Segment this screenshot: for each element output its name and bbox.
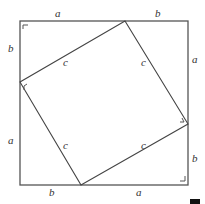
label-right-a: a [192,53,198,65]
end-marker [190,199,200,204]
label-bottom-b: b [49,186,55,198]
label-c-top-left: c [63,56,68,68]
right-angle-mark-bottom-right [180,176,185,181]
right-angle-mark-top-left [23,25,28,29]
right-angle-mark-right [180,118,184,122]
label-c-bottom-right: c [141,139,146,151]
label-c-bottom-left: c [63,139,68,151]
pythagorean-diagram: a b b a a b b a c c c c [0,0,205,204]
label-c-top-right: c [141,56,146,68]
label-top-b: b [155,7,161,19]
label-right-b: b [192,152,198,164]
right-angle-mark-left [24,84,27,90]
inner-square [20,21,188,185]
label-top-a: a [55,7,61,19]
label-left-b: b [8,42,14,54]
label-left-a: a [8,134,14,146]
label-bottom-a: a [136,186,142,198]
outer-square [20,21,188,185]
